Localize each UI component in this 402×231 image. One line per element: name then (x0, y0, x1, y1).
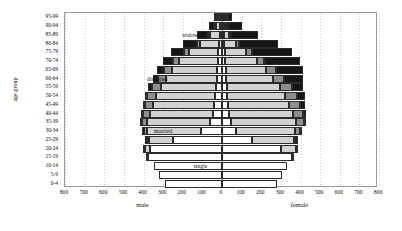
pyramid-half-male (65, 66, 222, 74)
pyramid-row (65, 40, 378, 48)
pyramid-half-female (222, 136, 378, 144)
segment-widowed (297, 92, 304, 100)
segment-divorced (273, 75, 284, 83)
segment-widowed (228, 22, 242, 30)
segment-married (156, 92, 215, 100)
y-axis-tick: 5-9 (51, 171, 58, 177)
segment-married (166, 75, 216, 83)
segment-widowed (296, 136, 298, 144)
segment-married (226, 75, 273, 83)
x-axis-tick: 500 (119, 189, 127, 196)
y-axis-tick: 90-94 (45, 22, 58, 28)
pyramid-half-male (65, 136, 222, 144)
pyramid-row (65, 162, 378, 170)
segment-divorced (266, 66, 276, 74)
pyramid-half-male (65, 48, 222, 56)
segment-married (231, 118, 296, 126)
segment-single (222, 127, 236, 135)
annotation-single: single (193, 163, 207, 169)
pyramid-half-male (65, 118, 222, 126)
segment-married (149, 136, 173, 144)
segment-widowed (183, 40, 197, 48)
segment-married (179, 57, 217, 65)
segment-divorced (285, 92, 297, 100)
x-axis-tick: 400 (138, 189, 146, 196)
pyramid-half-female (222, 118, 378, 126)
segment-married (281, 145, 296, 153)
pyramid-row (65, 153, 378, 161)
segment-divorced (296, 118, 304, 126)
segment-divorced (289, 101, 300, 109)
segment-single (222, 180, 277, 188)
segment-divorced (152, 83, 161, 91)
segment-married (229, 110, 293, 118)
segment-single (215, 92, 222, 100)
segment-single (222, 162, 287, 170)
pyramid-half-male (65, 127, 222, 135)
segment-widowed (231, 31, 258, 39)
segment-married (227, 83, 280, 91)
segment-married (236, 127, 295, 135)
x-axis-label-male: male (136, 201, 148, 208)
segment-single (222, 136, 252, 144)
segment-divorced (143, 110, 150, 118)
pyramid-row (65, 83, 378, 91)
segment-divorced (293, 110, 303, 118)
pyramid-half-male (65, 83, 222, 91)
pyramid-half-male (65, 92, 222, 100)
pyramid-half-male (65, 57, 222, 65)
y-axis-tick: 40-44 (45, 110, 58, 116)
x-axis-tick: 100 (197, 189, 205, 196)
y-axis-tick: 55-59 (45, 83, 58, 89)
segment-married (147, 118, 210, 126)
segment-married (224, 40, 236, 48)
y-axis-tick: 30-34 (45, 127, 58, 133)
gridline (379, 13, 380, 186)
x-axis-tick: 700 (354, 189, 362, 196)
x-axis-tick: 600 (99, 189, 107, 196)
segment-married (210, 31, 220, 39)
pyramid-half-female (222, 92, 378, 100)
pyramid-half-male (65, 145, 222, 153)
segment-widowed (157, 66, 164, 74)
segment-widowed (276, 66, 303, 74)
segment-married (153, 101, 214, 109)
pyramid-row (65, 13, 378, 21)
segment-widowed (252, 48, 292, 56)
x-axis-tick: 800 (374, 189, 382, 196)
segment-married (228, 101, 289, 109)
segment-single (173, 136, 222, 144)
x-axis-tick: 500 (315, 189, 323, 196)
y-axis-tick: 45-49 (45, 101, 58, 107)
y-axis-tick: 95-99 (45, 13, 58, 19)
pyramid-row (65, 31, 378, 39)
segment-divorced (296, 145, 298, 153)
segment-married (225, 57, 256, 65)
pyramid-row (65, 145, 378, 153)
pyramid-half-female (222, 101, 378, 109)
y-axis-tick-labels: 0-45-910-1415-1920-2425-2930-3435-3940-4… (0, 12, 61, 187)
segment-widowed (303, 110, 306, 118)
pyramid-row (65, 22, 378, 30)
segment-single (165, 180, 222, 188)
y-axis-tick: 80-84 (45, 40, 58, 46)
segment-widowed (300, 101, 305, 109)
pyramid-half-male (65, 75, 222, 83)
pyramid-half-female (222, 66, 378, 74)
y-axis-tick: 50-54 (45, 92, 58, 98)
y-axis-tick: 60-64 (45, 75, 58, 81)
x-axis-tick: 300 (158, 189, 166, 196)
x-axis-tick: 800 (60, 189, 68, 196)
pyramid-row (65, 75, 378, 83)
segment-single (148, 153, 222, 161)
segment-married (172, 66, 217, 74)
segment-widowed (228, 13, 232, 21)
segment-married (227, 92, 285, 100)
pyramid-half-female (222, 75, 378, 83)
segment-single (201, 127, 222, 135)
segment-married (225, 48, 247, 56)
y-axis-tick: 25-29 (45, 136, 58, 142)
x-axis-tick: 200 (256, 189, 264, 196)
segment-single (222, 171, 282, 179)
pyramid-row (65, 92, 378, 100)
